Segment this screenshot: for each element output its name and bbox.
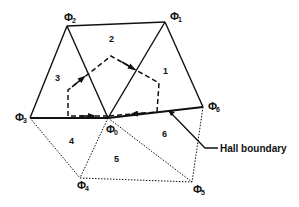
arrow-icon — [122, 62, 134, 69]
arrow-icon — [132, 113, 146, 114]
region-label-1: 1 — [163, 66, 168, 76]
vertex-label-phi1: Φ 1 — [170, 10, 182, 23]
region-label-6: 6 — [162, 129, 167, 139]
hall-boundary-label: Hall boundary — [220, 143, 287, 154]
vertex-label-phi4: Φ 4 — [77, 179, 89, 192]
hall-boundary-leader — [170, 112, 218, 148]
vertex-label-phi3: Φ 3 — [15, 111, 27, 124]
dashed-cell-boundary — [68, 56, 159, 116]
solid-triangle-edges — [30, 22, 203, 118]
vertex-label-phi0: Φ 0 — [106, 123, 118, 136]
vertex-label-phi6: Φ 6 — [208, 100, 220, 113]
vertex-label-phi5: Φ 5 — [193, 183, 205, 196]
region-label-3: 3 — [55, 73, 60, 83]
vertex-label-phi2: Φ 2 — [64, 11, 76, 24]
voronoi-triangulation-diagram: 1 2 3 4 5 6 Φ 0 Φ 1 Φ 2 Φ 3 Φ 4 Φ 5 Φ 6 … — [0, 0, 299, 207]
region-label-5: 5 — [114, 154, 119, 164]
svg-text:6: 6 — [216, 106, 220, 113]
svg-text:0: 0 — [114, 129, 118, 136]
hall-boundary-line — [30, 107, 203, 118]
svg-text:4: 4 — [85, 185, 89, 192]
svg-text:1: 1 — [178, 16, 182, 23]
svg-text:5: 5 — [201, 189, 205, 196]
region-label-2: 2 — [109, 34, 114, 44]
region-label-4: 4 — [69, 136, 74, 146]
svg-text:3: 3 — [23, 117, 27, 124]
svg-text:2: 2 — [72, 17, 76, 24]
arrow-icon — [72, 77, 84, 87]
